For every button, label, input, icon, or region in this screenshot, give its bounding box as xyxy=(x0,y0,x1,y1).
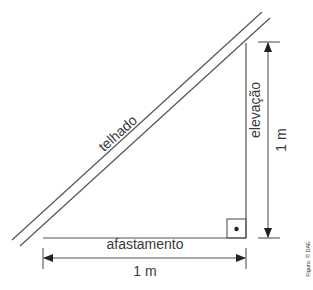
rise-value: 1 m xyxy=(273,128,289,151)
run-label: afastamento xyxy=(106,236,183,252)
roof-lines xyxy=(12,12,270,246)
image-credit: Figura: © DAE xyxy=(305,241,311,277)
right-angle-icon xyxy=(227,219,246,238)
roof-label: telhado xyxy=(95,112,140,155)
run-value: 1 m xyxy=(133,263,156,279)
rise-label: elevação xyxy=(247,82,263,138)
roof-slope-diagram: telhado elevação 1 m afastamento 1 m Fig… xyxy=(0,0,313,290)
